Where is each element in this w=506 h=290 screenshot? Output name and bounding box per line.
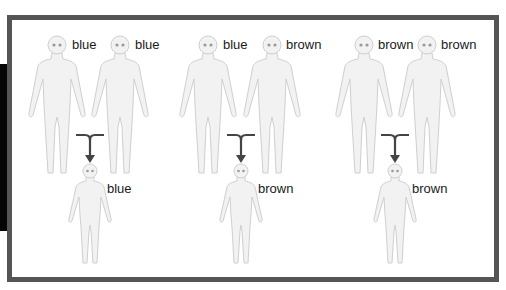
child-figure-icon xyxy=(374,164,416,263)
merge-arrow-icon xyxy=(76,135,104,163)
family-group-1 xyxy=(29,36,148,263)
parent-figure-icon xyxy=(29,36,85,173)
merge-arrow-icon xyxy=(227,135,255,163)
child-eye-color-label: brown xyxy=(258,182,293,195)
parent-figure-icon xyxy=(180,36,236,173)
parent-figure-icon xyxy=(92,36,148,173)
child-figure-icon xyxy=(69,164,111,263)
merge-arrow-icon xyxy=(381,135,409,163)
parent-figure-icon xyxy=(336,36,392,173)
child-eye-color-label: brown xyxy=(412,182,447,195)
parent-eye-color-label: brown xyxy=(378,38,413,51)
child-eye-color-label: blue xyxy=(107,182,132,195)
parent-eye-color-label: blue xyxy=(135,38,160,51)
family-group-2 xyxy=(180,36,300,263)
parent-eye-color-label: brown xyxy=(441,38,476,51)
parent-eye-color-label: blue xyxy=(72,38,97,51)
parent-figure-icon xyxy=(399,36,455,173)
parent-eye-color-label: brown xyxy=(286,38,321,51)
parent-figure-icon xyxy=(244,36,300,173)
parent-eye-color-label: blue xyxy=(223,38,248,51)
child-figure-icon xyxy=(220,164,262,263)
family-group-3 xyxy=(336,36,455,263)
